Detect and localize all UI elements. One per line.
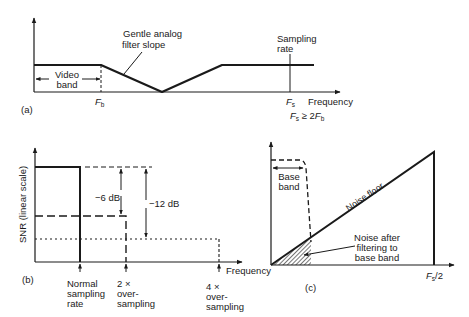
filter-slope-leader — [124, 52, 142, 74]
snr-normal-sampling — [35, 167, 80, 262]
fs-subscript: s — [292, 101, 295, 108]
filter-slope-label-line1: Gentle analog — [123, 29, 182, 40]
fs-tick-label: Fs — [286, 97, 295, 111]
half-fs-tick-label: Fs/2 — [426, 271, 443, 285]
panel-b-y-axis-label: SNR (linear scale) — [18, 166, 29, 243]
panel-c-tag: (c) — [305, 283, 316, 294]
tick-4x-line3: sampling — [206, 302, 244, 313]
condition-rhs-sub: b — [321, 115, 325, 122]
tick-2x-line3: sampling — [117, 299, 155, 310]
panel-a-tag: (a) — [21, 105, 33, 116]
minus6-db-label: −6 dB — [95, 193, 120, 204]
fb-subscript: b — [101, 101, 105, 108]
fb-tick-label: Fb — [95, 97, 104, 111]
video-band-label-line2: band — [52, 80, 82, 91]
minus12-db-label: −12 dB — [149, 199, 179, 210]
noise-after-label-line3: base band — [352, 253, 402, 264]
base-band-label-line2: band — [278, 182, 300, 193]
panel-b-x-axis-label: Frequency — [226, 266, 271, 277]
half-fs-tail: /2 — [435, 270, 443, 281]
panel-b-tag: (b) — [22, 275, 34, 286]
condition-op: ≥ 2 — [299, 110, 315, 121]
sampling-condition: Fs ≥ 2Fb — [290, 111, 324, 125]
noise-after-leader — [304, 246, 355, 255]
filter-slope-label-line2: filter slope — [122, 40, 165, 51]
tick-normal-line3: rate — [67, 299, 83, 310]
panel-a-x-axis-label: Frequency — [308, 97, 353, 108]
panel-b — [35, 148, 242, 272]
sampling-rate-label-line2: rate — [277, 44, 293, 55]
